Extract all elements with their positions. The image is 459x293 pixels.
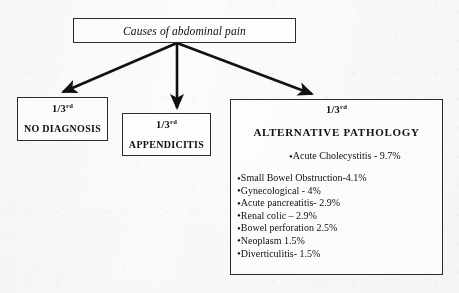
list-item: •Gynecological - 4% [237,185,442,198]
arrow-to-no-diagnosis [63,43,177,92]
bullet-icon: • [237,172,241,184]
list-item-label: Gynecological - 4% [241,185,321,196]
fraction-suffix-appendicitis: rd [170,118,177,125]
bullet-icon: • [237,222,241,234]
pathology-list: •Small Bowel Obstruction-4.1% •Gynecolog… [231,172,442,260]
list-item-label: Acute pancreatitis- 2.9% [241,197,340,208]
list-item-label: Bowel perforation 2.5% [241,222,337,233]
bullet-icon: • [237,234,241,246]
pathology-lead-item: •Acute Cholecystitis - 9.7% [231,150,442,161]
branch-box-appendicitis: 1/3rd APPENDICITIS [122,113,211,156]
fraction-value-alternative-pathology: 1/3 [326,104,340,115]
fraction-value-no-diagnosis: 1/3 [52,103,66,114]
pathology-lead-item-label: Acute Cholecystitis - 9.7% [293,150,401,161]
branch-box-alternative-pathology: 1/3rd ALTERNATIVE PATHOLOGY •Acute Chole… [230,99,443,275]
fraction-appendicitis: 1/3rd [123,119,210,130]
fraction-value-appendicitis: 1/3 [156,119,170,130]
fraction-alternative-pathology: 1/3rd [231,104,442,115]
bullet-icon: • [289,150,293,162]
arrow-to-alternative-pathology [177,43,312,94]
fraction-no-diagnosis: 1/3rd [18,103,107,114]
branch-box-no-diagnosis: 1/3rd NO DIAGNOSIS [17,97,108,141]
list-item: •Diverticulitis- 1.5% [237,248,442,261]
bullet-icon: • [237,247,241,259]
bullet-icon: • [237,209,241,221]
list-item: •Neoplasm 1.5% [237,235,442,248]
fraction-suffix-alternative-pathology: rd [340,103,347,110]
branch-title-alternative-pathology: ALTERNATIVE PATHOLOGY [231,126,442,138]
fraction-suffix-no-diagnosis: rd [66,102,73,109]
list-item-label: Diverticulitis- 1.5% [241,248,320,259]
branch-title-appendicitis: APPENDICITIS [123,139,210,150]
list-item-label: Neoplasm 1.5% [241,235,305,246]
list-item-label: Small Bowel Obstruction-4.1% [241,172,367,183]
list-item-label: Renal colic – 2.9% [241,210,317,221]
bullet-icon: • [237,197,241,209]
list-item: •Small Bowel Obstruction-4.1% [237,172,442,185]
root-node-box: Causes of abdominal pain [73,18,296,43]
list-item: •Bowel perforation 2.5% [237,222,442,235]
root-node-label: Causes of abdominal pain [123,25,246,37]
branch-title-no-diagnosis: NO DIAGNOSIS [18,123,107,134]
bullet-icon: • [237,184,241,196]
list-item: •Acute pancreatitis- 2.9% [237,197,442,210]
diagram-canvas: Causes of abdominal pain 1/3rd NO DIAGNO… [0,0,459,293]
list-item: •Renal colic – 2.9% [237,210,442,223]
